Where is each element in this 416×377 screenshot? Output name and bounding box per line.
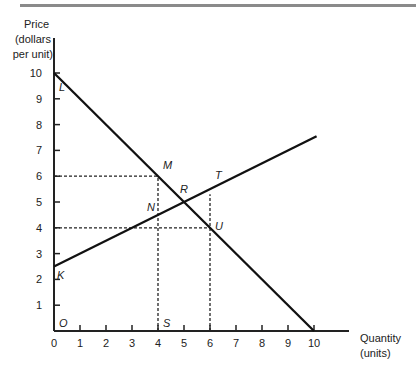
y-tick-label: 3 — [36, 248, 42, 260]
x-tick-label: 9 — [285, 337, 291, 349]
point-label-k: K — [57, 269, 65, 281]
point-label-t: T — [215, 169, 223, 181]
y-tick-label: 8 — [36, 119, 42, 131]
reference-lines — [54, 176, 210, 331]
axes — [54, 38, 349, 331]
point-label-r: R — [180, 183, 188, 195]
x-tick-label: 1 — [77, 337, 83, 349]
x-tick-label: 0 — [51, 337, 57, 349]
x-tick-label: 5 — [181, 337, 187, 349]
x-tick-label: 8 — [259, 337, 265, 349]
point-label-s: S — [163, 317, 171, 329]
supply-line — [54, 136, 317, 266]
y-tick-label: 7 — [36, 144, 42, 156]
point-label-o: O — [59, 317, 68, 329]
x-tick-label: 4 — [155, 337, 161, 349]
x-axis-title: Quantity — [360, 332, 401, 344]
y-axis-title: Price — [24, 18, 49, 30]
y-tick-label: 10 — [30, 67, 42, 79]
y-tick-label: 5 — [36, 196, 42, 208]
x-tick-label: 7 — [233, 337, 239, 349]
x-tick-label: 6 — [207, 337, 213, 349]
y-axis-title: per unit) — [13, 48, 53, 60]
x-axis-title: (units) — [360, 347, 391, 359]
y-tick-label: 2 — [36, 273, 42, 285]
point-labels: LMRTNUKOS — [57, 81, 223, 329]
point-label-n: N — [147, 201, 155, 213]
x-tick-label: 10 — [308, 337, 320, 349]
x-tick-label: 3 — [129, 337, 135, 349]
point-label-l: L — [59, 81, 65, 93]
y-axis-title: (dollars — [15, 33, 52, 45]
curves — [54, 73, 317, 331]
y-tick-label: 1 — [36, 299, 42, 311]
y-tick-label: 9 — [36, 93, 42, 105]
supply-demand-chart: 01234567891012345678910 Price(dollarsper… — [0, 0, 416, 377]
point-label-u: U — [215, 220, 223, 232]
tick-labels: 01234567891012345678910 — [30, 67, 320, 349]
y-tick-label: 6 — [36, 170, 42, 182]
x-tick-label: 2 — [103, 337, 109, 349]
point-label-m: M — [163, 159, 173, 171]
axis-titles: Price(dollarsper unit)Quantity(units) — [13, 18, 402, 359]
y-tick-label: 4 — [36, 222, 42, 234]
